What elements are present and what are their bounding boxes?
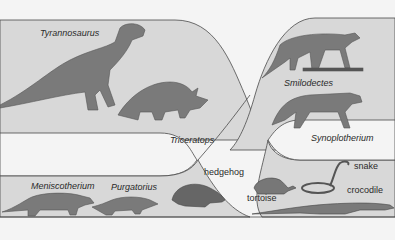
label-smilodectes: Smilodectes [284, 78, 333, 88]
label-crocodile: crocodile [347, 185, 383, 195]
label-hedgehog: hedgehog [204, 167, 244, 177]
label-purgatorius: Purgatorius [111, 182, 157, 192]
gap-lower-left [0, 133, 197, 176]
label-triceratops: Triceratops [170, 135, 214, 145]
label-synoplotherium: Synoplotherium [311, 133, 374, 143]
label-snake: snake [354, 161, 378, 171]
label-meniscotherium: Meniscotherium [31, 181, 95, 191]
label-tyrannosaurus: Tyrannosaurus [40, 28, 99, 38]
label-tortoise: tortoise [247, 193, 277, 203]
